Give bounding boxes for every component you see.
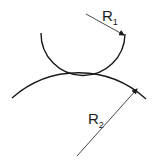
large-arc	[12, 73, 146, 99]
tangent-circles-diagram: R1 R2	[0, 0, 153, 163]
small-arc	[41, 33, 125, 75]
r2-label: R2	[88, 110, 104, 130]
r2-radius-line	[77, 89, 137, 156]
